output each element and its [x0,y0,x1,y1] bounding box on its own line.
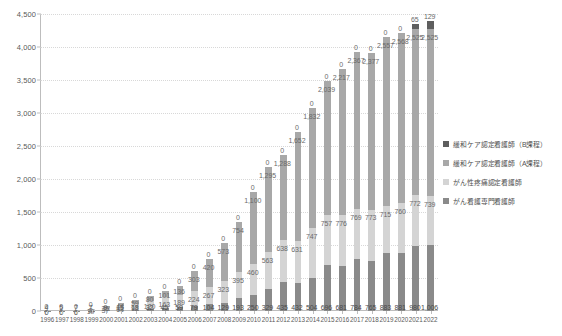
bar-segment [383,253,390,311]
x-axis-tick-label: 2000 [99,316,113,323]
legend-item-label: がん性疼痛認定看護師 [453,177,522,187]
bar-segment [295,283,302,312]
bar-segment [265,252,272,289]
x-axis-tick-mark [47,311,48,314]
x-axis-tick-mark [401,311,402,314]
legend-item[interactable]: がん看護専門看護師 [443,196,562,206]
bar-segment [354,52,361,208]
bar-column[interactable] [309,108,316,311]
x-axis-tick-mark [151,311,152,314]
bar-segment [221,243,228,281]
y-axis-tick-label: 3,500 [17,76,36,85]
x-axis-tick-mark [92,311,93,314]
bar-segment [427,196,434,245]
x-axis-tick-label: 2021 [409,316,423,323]
bar-segment [236,298,243,311]
bar-column[interactable] [354,52,361,311]
x-axis-tick-label: 2003 [144,316,158,323]
x-axis-tick-label: 2001 [114,316,128,323]
x-axis-tick-label: 2013 [291,316,305,323]
bar-segment [324,81,331,216]
y-axis-tick-label: 4,500 [17,10,36,19]
bar-segment [412,29,419,196]
bar-segment [265,167,272,252]
bar-segment [250,192,257,265]
x-axis-tick-label: 1999 [85,316,99,323]
bar-segment [324,215,331,265]
legend-item[interactable]: 緩和ケア認定看護師（A課程） [443,158,562,168]
bar-column[interactable] [147,296,154,311]
bar-segment [295,241,302,283]
legend-swatch-icon [443,160,449,166]
bar-segment [427,29,434,196]
bar-column[interactable] [339,69,346,311]
bar-series-container [40,14,438,311]
y-axis-tick-label: 500 [23,274,36,283]
y-axis-tick-label: 2,000 [17,175,36,184]
x-axis-tick-mark [283,311,284,314]
y-axis-tick-label: 1,500 [17,208,36,217]
x-axis-tick-mark [77,311,78,314]
bar-segment [280,240,287,282]
x-axis-tick-label: 2004 [158,316,172,323]
bar-segment [191,291,198,306]
legend-item-label: がん看護専門看護師 [453,196,515,206]
bar-column[interactable] [236,222,243,311]
bar-column[interactable] [191,271,198,311]
legend-item[interactable]: 緩和ケア認定看護師（B課程） [443,139,562,149]
bar-segment [265,289,272,311]
bar-segment [398,203,405,253]
bar-column[interactable] [324,81,331,311]
bar-column[interactable] [206,259,213,311]
x-axis-tick-mark [372,311,373,314]
bar-column[interactable] [162,291,169,311]
legend-swatch-icon [443,141,449,147]
x-axis-tick-label: 2016 [335,316,349,323]
bar-segment [280,282,287,311]
bar-segment [206,304,213,311]
bar-column[interactable] [398,33,405,311]
bar-column[interactable] [295,132,302,311]
x-axis-tick-mark [431,311,432,314]
y-axis-tick-label: 1,000 [17,241,36,250]
bar-segment [354,209,361,260]
x-axis-tick-mark [210,311,211,314]
x-axis-tick-mark [224,311,225,314]
bar-column[interactable] [412,24,419,311]
bar-segment [295,132,302,241]
bar-segment [177,295,184,307]
bar-column[interactable] [383,37,390,311]
bar-segment [177,286,184,295]
bar-column[interactable] [427,21,434,311]
bar-column[interactable] [132,300,139,311]
bar-column[interactable] [177,286,184,311]
legend-swatch-icon [443,198,449,204]
x-axis-tick-mark [416,311,417,314]
bar-segment [339,215,346,266]
x-axis-tick-mark [106,311,107,314]
bar-segment [368,261,375,311]
x-axis-tick-mark [298,311,299,314]
y-axis-tick-label: 0 [32,307,36,316]
bar-segment [191,271,198,291]
bar-column[interactable] [368,53,375,311]
x-axis-tick-label: 2011 [262,316,276,323]
x-axis-tick-label: 2005 [173,316,187,323]
x-axis-ticks: 1996199719981999200020012002200320042005… [40,313,438,333]
bar-column[interactable] [280,155,287,311]
bar-segment [280,155,287,240]
bar-segment [427,245,434,311]
legend-item[interactable]: がん性疼痛認定看護師 [443,177,562,187]
bar-segment [427,21,434,30]
bar-segment [250,264,257,294]
bar-column[interactable] [250,192,257,311]
bar-segment [354,259,361,311]
x-axis-tick-mark [62,311,63,314]
bar-column[interactable] [118,303,125,311]
bar-segment [206,287,213,305]
bar-segment [412,195,419,246]
bar-column[interactable] [221,243,228,311]
bar-segment [368,210,375,261]
bar-segment [309,228,316,277]
bar-column[interactable] [265,167,272,311]
